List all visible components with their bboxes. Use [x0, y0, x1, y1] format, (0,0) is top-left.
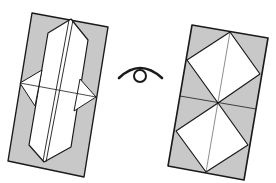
turn-over-eye-icon	[119, 68, 162, 82]
diagram-canvas	[0, 0, 276, 183]
origami-diagram	[0, 0, 276, 183]
right-model	[168, 25, 268, 180]
left-model	[8, 13, 108, 177]
